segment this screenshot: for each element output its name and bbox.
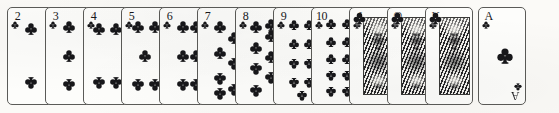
club-icon <box>250 63 263 76</box>
club-icon <box>326 36 337 47</box>
card-rank-label-rotated: A <box>509 90 522 102</box>
card-index-top-left: 9 <box>277 10 290 29</box>
club-icon <box>214 47 227 60</box>
card-index-top-left: 3 <box>49 10 62 29</box>
club-icon <box>214 88 227 101</box>
club-icon <box>353 11 366 29</box>
card-index-top-left: 5 <box>125 10 138 29</box>
club-icon <box>289 39 300 50</box>
club-icon <box>326 87 337 98</box>
card-index-top-left: 8 <box>239 10 252 29</box>
court-figure-artwork <box>440 18 469 94</box>
card-k-of-clubs[interactable]: K <box>425 7 473 105</box>
club-icon <box>177 78 190 91</box>
card-a-of-clubs[interactable]: AA <box>478 7 526 105</box>
club-icon <box>25 23 38 36</box>
card-index-top-left: 2 <box>11 10 24 29</box>
club-icon <box>63 50 76 63</box>
club-icon <box>296 91 307 102</box>
card-rank-label: 10 <box>315 10 328 22</box>
club-icon <box>132 78 145 91</box>
club-icon <box>326 53 337 64</box>
club-icon <box>177 50 190 63</box>
card-index-top-left: A <box>482 10 495 29</box>
club-icon <box>63 21 76 34</box>
card-index-top-left: 4 <box>87 10 100 29</box>
club-icon <box>496 47 513 68</box>
playing-card-row: 2345678910JQKAA <box>0 0 559 113</box>
court-portrait-panel <box>439 17 470 95</box>
card-index-bottom-right: A <box>509 83 522 102</box>
club-icon <box>25 76 38 89</box>
club-icon <box>214 21 227 34</box>
club-icon <box>250 42 263 55</box>
card-index-top-left: 10 <box>315 10 328 29</box>
club-icon <box>289 58 300 69</box>
club-icon <box>63 78 76 91</box>
club-icon <box>139 50 152 63</box>
card-index-top-left: 7 <box>201 10 214 29</box>
club-icon <box>289 20 300 31</box>
card-index-top-left: 6 <box>163 10 176 29</box>
club-icon <box>391 11 404 29</box>
club-icon <box>250 84 263 97</box>
club-icon <box>214 73 227 86</box>
club-icon <box>429 11 442 29</box>
club-icon <box>326 71 337 82</box>
club-icon <box>93 76 106 89</box>
club-icon <box>289 77 300 88</box>
club-icon <box>177 21 190 34</box>
